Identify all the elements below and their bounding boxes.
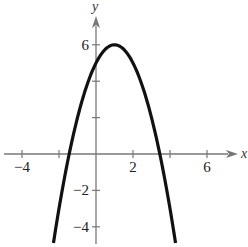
x-tick-label: 2: [129, 159, 137, 175]
x-axis-label: x: [240, 146, 248, 161]
labels: xy−426−4−26: [14, 0, 248, 235]
axes: [4, 16, 238, 244]
y-tick-label: −4: [73, 219, 89, 235]
y-tick-label: 6: [82, 37, 90, 53]
y-tick-label: −2: [73, 182, 89, 198]
parabola-curve: [53, 45, 175, 243]
y-axis-label: y: [90, 0, 99, 14]
series: [53, 45, 175, 243]
x-tick-label: 6: [203, 159, 211, 175]
x-tick-label: −4: [14, 159, 30, 175]
ticks: [22, 45, 207, 227]
chart: xy−426−4−26: [0, 0, 248, 247]
